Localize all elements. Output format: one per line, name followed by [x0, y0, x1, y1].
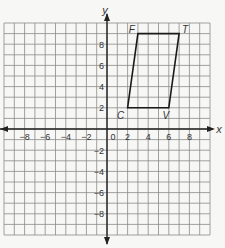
x-axis-label: x	[215, 123, 222, 135]
vertex-label-v: V	[162, 110, 170, 121]
y-tick-label: −6	[94, 188, 104, 198]
y-tick-label: −8	[94, 209, 104, 219]
vertex-label-c: C	[117, 110, 125, 121]
origin-label: 0	[110, 132, 115, 142]
vertex-label-t: T	[182, 24, 189, 35]
coordinate-plane: −8−6−4−22468−8−6−4−224680xy CFTV	[0, 0, 225, 248]
y-tick-label: 8	[99, 40, 104, 50]
x-tick-label: 4	[146, 132, 151, 142]
parallelogram-cftv	[128, 34, 180, 108]
y-tick-label: −4	[94, 167, 104, 177]
x-axis-right-arrow-icon	[207, 126, 215, 132]
y-tick-label: −2	[94, 146, 104, 156]
vertex-label-f: F	[129, 24, 136, 35]
y-tick-label: 2	[99, 103, 104, 113]
y-axis-label: y	[101, 4, 109, 16]
x-tick-label: −6	[40, 132, 50, 142]
parallelogram-outline	[128, 34, 180, 108]
y-axis-down-arrow-icon	[104, 237, 110, 245]
y-tick-label: 6	[99, 61, 104, 71]
x-tick-label: 6	[166, 132, 171, 142]
axes	[0, 13, 215, 245]
x-tick-label: −2	[81, 132, 91, 142]
x-tick-label: 2	[125, 132, 130, 142]
y-tick-label: 4	[99, 82, 104, 92]
x-tick-label: −4	[61, 132, 71, 142]
x-tick-label: 8	[187, 132, 192, 142]
x-tick-label: −8	[19, 132, 29, 142]
